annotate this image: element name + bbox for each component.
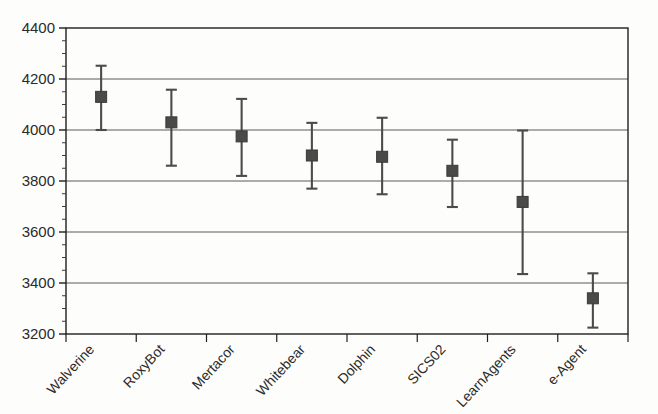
- plot-background: [0, 0, 658, 414]
- y-axis-tick-label: 4000: [22, 121, 55, 138]
- y-axis-tick-label: 3600: [22, 223, 55, 240]
- data-point-marker: [166, 117, 177, 128]
- y-axis-tick-label: 4400: [22, 19, 55, 36]
- data-point-marker: [377, 151, 388, 162]
- errorbar-chart: 4400420040003800360034003200 WalverineRo…: [0, 0, 658, 414]
- y-axis-tick-label: 3800: [22, 172, 55, 189]
- data-point-marker: [517, 196, 528, 207]
- data-point-marker: [447, 165, 458, 176]
- chart-page: 4400420040003800360034003200 WalverineRo…: [0, 0, 658, 414]
- y-axis-tick-label: 4200: [22, 70, 55, 87]
- data-point-marker: [236, 131, 247, 142]
- y-axis-tick-label: 3200: [22, 325, 55, 342]
- data-point-marker: [587, 293, 598, 304]
- data-point-marker: [96, 91, 107, 102]
- data-point-marker: [306, 150, 317, 161]
- y-axis-tick-label: 3400: [22, 274, 55, 291]
